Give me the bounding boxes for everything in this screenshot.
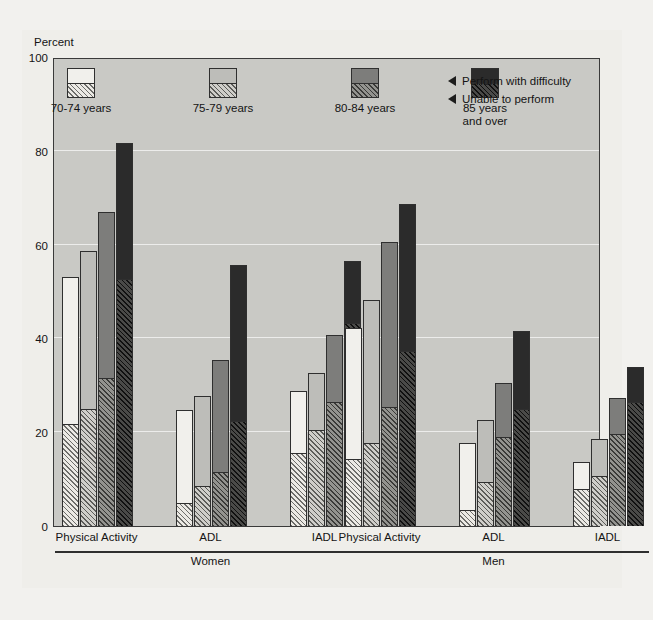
- legend-callout-difficulty: Perform with difficulty: [448, 72, 571, 90]
- bar-segment-unable-to-perform: [460, 510, 475, 526]
- bar-segment-unable-to-perform: [592, 476, 607, 526]
- bar-segment-unable-to-perform: [327, 402, 342, 526]
- bar-men-iadl-age3: [609, 398, 626, 527]
- bar-women-physical-activity-age2: [80, 251, 97, 526]
- legend-swatch-icon: [209, 68, 237, 98]
- legend-callout-label: Unable to perform: [462, 90, 554, 108]
- bar-men-physical-activity-age2: [363, 300, 380, 526]
- bar-segment-unable-to-perform: [610, 434, 625, 526]
- y-tick-label-60: 60: [4, 240, 48, 252]
- bar-segment-unable-to-perform: [400, 351, 415, 526]
- legend-swatch-difficulty: [68, 69, 94, 83]
- bar-segment-unable-to-perform: [496, 437, 511, 526]
- bar-men-iadl-age2: [591, 439, 608, 526]
- x-axis-category-label: ADL: [434, 531, 554, 543]
- bar-segment-unable-to-perform: [574, 489, 589, 526]
- bar-segment-unable-to-perform: [213, 472, 228, 526]
- legend-callout-unable: Unable to perform: [448, 90, 571, 108]
- legend-item-age-1: 70-74 years: [35, 68, 127, 115]
- bar-men-adl-age4: [513, 331, 530, 526]
- left-triangle-pointer-icon: [448, 94, 456, 104]
- y-tick-label-20: 20: [4, 427, 48, 439]
- sex-group-label-women: Women: [151, 555, 271, 567]
- legend-item-age-2: 75-79 years: [177, 68, 269, 115]
- gridline-60: [54, 244, 599, 245]
- bar-segment-unable-to-perform: [628, 402, 643, 526]
- y-tick-label-40: 40: [4, 333, 48, 345]
- bar-segment-unable-to-perform: [514, 409, 529, 526]
- bar-women-adl-age1: [176, 410, 193, 526]
- bar-women-physical-activity-age3: [98, 212, 115, 526]
- legend-label: 75-79 years: [177, 102, 269, 115]
- bar-women-adl-age2: [194, 396, 211, 526]
- bar-group-women-adl: [176, 265, 248, 526]
- bar-segment-unable-to-perform: [382, 407, 397, 526]
- page-bleedthrough-top: [30, 2, 624, 32]
- bar-men-iadl-age4: [627, 367, 644, 526]
- sex-group-label-men: Men: [434, 555, 554, 567]
- bar-segment-unable-to-perform: [364, 443, 379, 526]
- bar-segment-unable-to-perform: [81, 409, 96, 526]
- legend-item-age-3: 80-84 years: [319, 68, 411, 115]
- x-axis-category-label: IADL: [548, 531, 653, 543]
- sex-group-rule: [338, 551, 649, 553]
- bar-men-physical-activity-age1: [345, 328, 362, 526]
- legend-callout-list: Perform with difficultyUnable to perform: [448, 72, 571, 108]
- bar-men-adl-age3: [495, 383, 512, 526]
- legend-swatch-difficulty: [352, 69, 378, 83]
- x-axis-category-label: Physical Activity: [37, 531, 157, 543]
- bar-women-iadl-age2: [308, 373, 325, 526]
- bar-segment-unable-to-perform: [63, 424, 78, 526]
- bar-men-physical-activity-age3: [381, 242, 398, 526]
- bar-segment-unable-to-perform: [117, 279, 132, 526]
- plot-area: [53, 58, 600, 527]
- bar-segment-unable-to-perform: [291, 453, 306, 526]
- x-axis-category-label: ADL: [151, 531, 271, 543]
- gridline-80: [54, 150, 599, 151]
- x-axis-category-label: Physical Activity: [320, 531, 440, 543]
- bar-group-men-iadl: [573, 367, 645, 526]
- legend-swatch-unable: [210, 83, 236, 97]
- sex-group-rule: [55, 551, 366, 553]
- bar-women-physical-activity-age4: [116, 143, 133, 526]
- bar-segment-unable-to-perform: [177, 503, 192, 526]
- bar-segment-unable-to-perform: [195, 486, 210, 526]
- bar-men-adl-age2: [477, 420, 494, 526]
- bar-men-physical-activity-age4: [399, 204, 416, 526]
- bar-women-adl-age4: [230, 265, 247, 526]
- bar-segment-unable-to-perform: [231, 421, 246, 526]
- y-tick-label-80: 80: [4, 146, 48, 158]
- chart-legend: 70-74 years75-79 years80-84 years85 year…: [53, 58, 600, 118]
- bar-segment-unable-to-perform: [346, 459, 361, 526]
- x-axis-labels: Physical ActivityADLIADLWomenPhysical Ac…: [53, 529, 600, 589]
- bar-segment-unable-to-perform: [478, 482, 493, 526]
- legend-swatch-unable: [352, 83, 378, 97]
- bar-women-physical-activity-age1: [62, 277, 79, 526]
- bar-group-men-physical-activity: [345, 204, 417, 526]
- bar-women-iadl-age1: [290, 391, 307, 526]
- bar-men-adl-age1: [459, 443, 476, 526]
- bar-group-women-physical-activity: [62, 143, 134, 526]
- legend-label: 70-74 years: [35, 102, 127, 115]
- legend-label: 80-84 years: [319, 102, 411, 115]
- legend-swatch-icon: [67, 68, 95, 98]
- bar-segment-unable-to-perform: [309, 430, 324, 526]
- legend-swatch-unable: [68, 83, 94, 97]
- legend-swatch-icon: [351, 68, 379, 98]
- legend-callout-label: Perform with difficulty: [462, 72, 571, 90]
- y-tick-label-100: 100: [4, 52, 48, 64]
- bar-men-iadl-age1: [573, 462, 590, 526]
- left-triangle-pointer-icon: [448, 76, 456, 86]
- bar-women-iadl-age3: [326, 335, 343, 526]
- bar-segment-unable-to-perform: [99, 378, 114, 526]
- bar-group-men-adl: [459, 331, 531, 526]
- bar-women-adl-age3: [212, 360, 229, 526]
- legend-swatch-difficulty: [210, 69, 236, 83]
